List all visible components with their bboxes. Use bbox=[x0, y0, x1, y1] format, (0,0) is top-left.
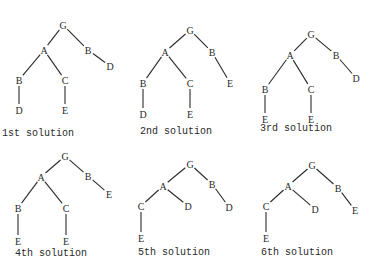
tree-edge bbox=[194, 168, 207, 180]
tree-edge bbox=[215, 57, 227, 78]
tree-node: A bbox=[159, 181, 167, 192]
tree-edge bbox=[145, 190, 158, 202]
tree-edge bbox=[45, 182, 62, 204]
tree-edge bbox=[316, 38, 332, 51]
tree-node: D bbox=[106, 61, 113, 72]
tree-edge bbox=[93, 180, 105, 190]
tree-node: D bbox=[352, 73, 359, 84]
tree-node: B bbox=[15, 203, 22, 214]
tree-node: A bbox=[40, 45, 48, 56]
tree-node: C bbox=[138, 201, 145, 212]
tree-edge bbox=[48, 30, 60, 45]
tree-node: G bbox=[186, 159, 193, 170]
solution-caption: 4th solution bbox=[15, 248, 87, 259]
tree-edge bbox=[46, 160, 61, 173]
solution-caption: 2nd solution bbox=[140, 126, 212, 137]
tree-edge bbox=[194, 34, 208, 48]
tree-node: B bbox=[85, 45, 92, 56]
tree-edge bbox=[269, 60, 287, 84]
tree-node: A bbox=[161, 47, 169, 58]
tree-sixth-solution: GABCDEE6th solution bbox=[261, 160, 358, 259]
tree-first-solution: GABDBCDE1st solution bbox=[2, 20, 114, 140]
tree-node: B bbox=[209, 47, 216, 58]
tree-node: E bbox=[63, 236, 69, 247]
tree-edge bbox=[294, 38, 307, 51]
tree-node: C bbox=[263, 201, 270, 212]
tree-edge bbox=[168, 190, 184, 203]
tree-edge bbox=[170, 34, 186, 48]
tree-node: B bbox=[16, 75, 23, 86]
tree-edge bbox=[93, 54, 105, 63]
tree-node: D bbox=[311, 204, 318, 215]
tree-node: G bbox=[186, 25, 193, 36]
tree-edge bbox=[169, 57, 186, 79]
tree-edge bbox=[317, 169, 334, 184]
tree-node: D bbox=[225, 202, 232, 213]
tree-node: D bbox=[15, 105, 22, 116]
trees-container: GABDBCDE1st solutionGABEBCDE2nd solution… bbox=[2, 20, 360, 260]
solution-trees-figure: GABDBCDE1st solutionGABEBCDE2nd solution… bbox=[0, 0, 373, 274]
tree-fifth-solution: GABCDDE5th solution bbox=[138, 159, 233, 259]
tree-node: C bbox=[308, 84, 315, 95]
tree-node: B bbox=[333, 50, 340, 61]
tree-node: C bbox=[62, 75, 69, 86]
tree-node: D bbox=[184, 201, 191, 212]
tree-node: E bbox=[138, 233, 144, 244]
tree-node: B bbox=[262, 84, 269, 95]
tree-node: D bbox=[139, 109, 146, 120]
tree-node: C bbox=[187, 78, 194, 89]
tree-node: B bbox=[85, 171, 92, 182]
tree-node: E bbox=[106, 189, 112, 200]
tree-edge bbox=[293, 169, 308, 182]
tree-node: A bbox=[286, 50, 294, 61]
tree-node: E bbox=[263, 233, 269, 244]
solution-caption: 5th solution bbox=[138, 247, 210, 258]
tree-node: E bbox=[62, 105, 68, 116]
tree-node: E bbox=[352, 205, 358, 216]
tree-edge bbox=[67, 29, 84, 46]
tree-edge bbox=[293, 190, 311, 205]
tree-node: B bbox=[209, 179, 216, 190]
tree-node: A bbox=[37, 172, 45, 183]
tree-second-solution: GABEBCDE2nd solution bbox=[139, 25, 233, 138]
tree-node: B bbox=[335, 183, 342, 194]
tree-edge bbox=[293, 60, 308, 84]
tree-node: C bbox=[63, 203, 70, 214]
tree-edge bbox=[216, 189, 226, 202]
tree-node: E bbox=[227, 78, 233, 89]
tree-edge bbox=[47, 55, 61, 75]
tree-node: G bbox=[308, 160, 315, 171]
tree-edge bbox=[22, 182, 38, 203]
tree-node: G bbox=[59, 20, 66, 31]
tree-edge bbox=[340, 60, 352, 74]
tree-edge bbox=[270, 190, 283, 202]
tree-edge bbox=[147, 57, 162, 78]
tree-node: E bbox=[15, 236, 21, 247]
solution-caption: 3rd solution bbox=[260, 123, 332, 134]
tree-edge bbox=[168, 168, 186, 182]
solution-caption: 6th solution bbox=[261, 247, 333, 258]
tree-node: G bbox=[307, 29, 314, 40]
tree-node: G bbox=[61, 151, 68, 162]
tree-edge bbox=[70, 160, 84, 172]
tree-edge bbox=[23, 55, 40, 76]
tree-node: E bbox=[187, 109, 193, 120]
tree-third-solution: GABDBCEE3rd solution bbox=[260, 29, 360, 135]
tree-edge bbox=[342, 193, 352, 206]
solution-caption: 1st solution bbox=[2, 128, 74, 139]
tree-node: B bbox=[140, 78, 147, 89]
tree-fourth-solution: GABEBCEE4th solution bbox=[15, 151, 112, 260]
tree-node: A bbox=[284, 181, 292, 192]
